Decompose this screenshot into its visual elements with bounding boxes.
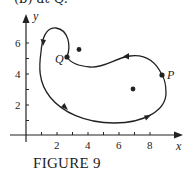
x-tick-label-2: 2 bbox=[54, 139, 60, 151]
dot-near-Q bbox=[77, 47, 82, 52]
x-axis-label: x bbox=[175, 139, 182, 153]
y-tick-label-4: 4 bbox=[15, 68, 21, 80]
y-tick-label-2: 2 bbox=[15, 99, 21, 111]
curve-arrow-lower-right-icon bbox=[144, 115, 151, 121]
x-tick-label-4: 4 bbox=[85, 139, 91, 151]
axes bbox=[10, 20, 178, 142]
x-tick-label-8: 8 bbox=[147, 139, 153, 151]
point-P bbox=[159, 72, 164, 77]
dot-interior bbox=[131, 87, 136, 92]
figure-diagram: 2 4 6 8 2 4 6 x y Q P bbox=[0, 0, 187, 174]
y-axis-label: y bbox=[32, 9, 39, 23]
x-tick-label-6: 6 bbox=[116, 139, 122, 151]
closed-curve bbox=[40, 28, 166, 123]
label-Q: Q bbox=[55, 52, 64, 66]
y-tick-label-6: 6 bbox=[15, 37, 21, 49]
figure-caption: FIGURE 9 bbox=[33, 155, 101, 172]
label-P: P bbox=[166, 68, 175, 82]
curve-arrow-top-icon bbox=[123, 53, 129, 60]
point-Q bbox=[64, 54, 69, 59]
x-axis-arrow-icon bbox=[174, 132, 183, 139]
y-axis-arrow-icon bbox=[23, 14, 30, 23]
